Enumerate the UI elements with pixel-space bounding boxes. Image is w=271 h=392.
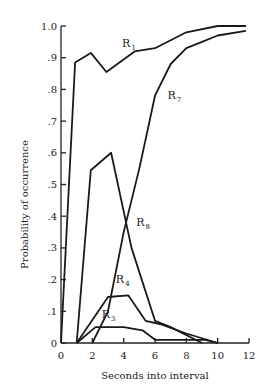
y-tick-label: .4 <box>47 211 57 222</box>
curve-r4 <box>77 295 218 343</box>
label-r4: R4 <box>116 273 130 288</box>
y-tick-label: .7 <box>47 116 57 127</box>
chart: 0.1.2.3.4.5.6.7.8.91.0 024681012 R1R7R8R… <box>0 0 271 392</box>
y-ticks: 0.1.2.3.4.5.6.7.8.91.0 <box>41 21 66 349</box>
label-r7: R7 <box>168 89 182 104</box>
y-tick-label: .1 <box>47 306 57 317</box>
y-tick-label: .3 <box>47 242 57 253</box>
x-tick-label: 12 <box>243 350 256 361</box>
y-tick-label: .9 <box>47 52 57 63</box>
y-tick-label: 0 <box>51 338 57 349</box>
y-tick-label: .5 <box>47 179 57 190</box>
curve-r3 <box>77 327 218 343</box>
curves <box>61 26 246 343</box>
y-tick-label: 1.0 <box>41 21 57 32</box>
x-tick-label: 4 <box>120 350 126 361</box>
x-axis-title: Seconds into interval <box>101 370 209 381</box>
x-tick-label: 2 <box>89 350 95 361</box>
x-tick-label: 0 <box>58 350 64 361</box>
y-tick-label: .6 <box>47 147 57 158</box>
x-tick-label: 8 <box>183 350 189 361</box>
x-tick-label: 6 <box>152 350 158 361</box>
label-r1: R1 <box>122 37 136 52</box>
y-tick-label: .8 <box>47 84 57 95</box>
y-tick-label: .2 <box>47 274 57 285</box>
label-r3: R3 <box>102 308 116 323</box>
x-tick-label: 10 <box>211 350 224 361</box>
y-axis-title: Probability of occurrence <box>19 140 30 269</box>
label-r8: R8 <box>136 216 150 231</box>
x-ticks: 024681012 <box>58 338 256 361</box>
